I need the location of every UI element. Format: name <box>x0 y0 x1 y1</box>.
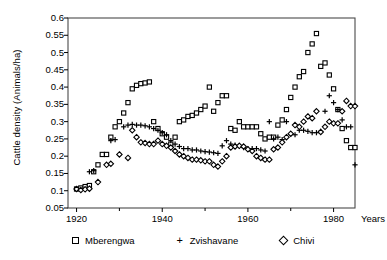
data-point <box>104 152 108 156</box>
data-point <box>344 98 349 103</box>
data-point <box>215 151 220 156</box>
chart-figure: Cattle density (Animals/ha) 0.050.10.150… <box>0 0 387 260</box>
data-point <box>155 138 160 143</box>
data-point <box>151 141 156 146</box>
data-point <box>246 125 250 129</box>
data-point <box>117 120 121 124</box>
data-point <box>177 120 181 124</box>
data-point <box>100 152 104 156</box>
y-tick-label: 0.5 <box>30 48 64 58</box>
data-point <box>220 143 225 148</box>
data-point <box>237 120 241 124</box>
data-point <box>207 159 212 164</box>
data-point <box>143 81 147 85</box>
data-point <box>259 132 263 136</box>
data-point <box>216 101 220 105</box>
data-point <box>172 148 177 153</box>
data-point <box>138 122 143 127</box>
data-point <box>212 109 216 113</box>
data-point <box>229 126 233 130</box>
data-point <box>352 103 357 108</box>
y-tick-label: 0.1 <box>30 186 64 196</box>
legend-item-zvishavane: + Zvishavane <box>173 235 239 246</box>
data-point <box>263 137 267 141</box>
data-point <box>254 125 258 129</box>
data-point <box>314 31 318 35</box>
data-point <box>279 140 284 145</box>
data-point <box>327 93 332 98</box>
data-point <box>331 87 335 91</box>
x-tick-label: 1920 <box>57 214 97 224</box>
chart-legend: Mberengwa + Zvishavane Chivi <box>68 232 358 248</box>
data-point <box>152 120 156 124</box>
data-point <box>194 147 199 152</box>
y-tick-label: 0.15 <box>30 168 64 178</box>
data-point <box>211 150 216 155</box>
data-point <box>147 80 151 84</box>
y-tick-label: 0.55 <box>30 30 64 40</box>
data-point <box>224 138 229 143</box>
data-point <box>134 83 138 87</box>
data-point <box>306 50 310 54</box>
data-point <box>122 111 126 115</box>
data-point <box>322 109 327 114</box>
data-point <box>96 163 100 167</box>
y-tick-label: 0.05 <box>30 203 64 213</box>
y-tick-label: 0.3 <box>30 117 64 127</box>
data-point <box>340 126 344 130</box>
y-tick-label: 0.6 <box>30 13 64 23</box>
square-marker-icon <box>68 235 82 246</box>
data-point <box>301 119 306 124</box>
x-tick-label: 1960 <box>228 214 268 224</box>
data-point <box>117 152 122 157</box>
data-point <box>331 100 336 105</box>
plus-marker-icon: + <box>173 235 187 246</box>
data-point <box>340 117 345 122</box>
y-tick-label: 0.4 <box>30 82 64 92</box>
data-point <box>224 153 229 158</box>
data-point <box>190 113 194 117</box>
data-point <box>199 107 203 111</box>
data-point <box>130 87 134 91</box>
y-tick-label: 0.25 <box>30 134 64 144</box>
x-axis-title: Years <box>361 214 385 224</box>
data-point <box>288 131 293 136</box>
data-point <box>353 145 357 149</box>
data-point <box>289 95 293 99</box>
data-point <box>267 119 272 124</box>
y-tick-label: 0.35 <box>30 99 64 109</box>
data-point <box>126 101 130 105</box>
data-point <box>233 128 237 132</box>
data-point <box>220 159 225 164</box>
y-tick-label: 0.45 <box>30 65 64 75</box>
data-point <box>310 42 314 46</box>
data-point <box>207 149 212 154</box>
data-point <box>349 145 353 149</box>
legend-item-chivi: Chivi <box>276 235 314 246</box>
data-point <box>267 157 272 162</box>
data-point <box>182 118 186 122</box>
data-point <box>301 128 306 133</box>
data-point <box>297 75 301 79</box>
data-point <box>335 121 340 126</box>
data-point <box>250 125 254 129</box>
y-tick-label: 0.2 <box>30 151 64 161</box>
data-point <box>323 61 327 65</box>
legend-label: Chivi <box>293 235 314 246</box>
diamond-marker-icon <box>276 235 290 246</box>
data-point <box>220 94 224 98</box>
legend-label: Zvishavane <box>190 235 239 246</box>
data-point <box>314 109 319 114</box>
data-point <box>327 73 331 77</box>
y-axis-title: Cattle density (Animals/ha) <box>6 0 26 215</box>
data-point <box>280 118 284 122</box>
legend-item-mberengwa: Mberengwa <box>68 235 135 246</box>
data-point <box>352 162 357 167</box>
data-point <box>173 135 177 139</box>
data-point <box>125 155 130 160</box>
data-point <box>319 64 323 68</box>
data-point <box>344 139 348 143</box>
data-point <box>134 134 139 139</box>
data-point <box>194 111 198 115</box>
data-point <box>267 135 271 139</box>
